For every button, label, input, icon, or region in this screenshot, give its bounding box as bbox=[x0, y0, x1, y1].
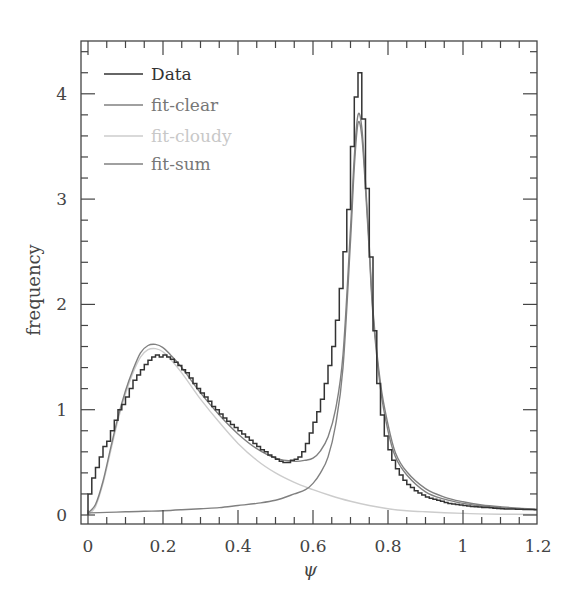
legend-item-data: Data bbox=[104, 64, 192, 84]
x-tick-label: 0.6 bbox=[299, 536, 326, 556]
plot-frame bbox=[81, 41, 537, 524]
histogram-bin bbox=[141, 370, 145, 515]
x-tick-label: 1.2 bbox=[524, 536, 551, 556]
histogram-bin bbox=[216, 410, 220, 515]
legend-label: Data bbox=[151, 64, 192, 84]
histogram-bin bbox=[152, 357, 156, 515]
y-axis-label: frequency bbox=[23, 243, 44, 335]
x-tick-label: 0.8 bbox=[374, 536, 401, 556]
legend-item-fit-cloudy: fit-cloudy bbox=[104, 126, 232, 146]
legend-label: fit-clear bbox=[151, 95, 219, 115]
legend: Datafit-clearfit-cloudyfit-sum bbox=[104, 64, 232, 174]
histogram-bin bbox=[287, 462, 291, 515]
histogram-bin bbox=[193, 383, 197, 515]
tick-labels: 00.20.40.60.811.201234 bbox=[56, 84, 551, 556]
x-tick-label: 0.4 bbox=[224, 536, 251, 556]
x-tick-label: 1 bbox=[458, 536, 469, 556]
histogram-bin bbox=[189, 378, 193, 515]
histogram-bin bbox=[242, 434, 246, 515]
histogram-bin bbox=[317, 412, 321, 515]
histogram-bin bbox=[268, 455, 272, 515]
histogram-bin bbox=[257, 447, 261, 515]
histogram-bin bbox=[159, 357, 163, 515]
histogram-bin bbox=[137, 375, 141, 515]
histogram-bin bbox=[272, 457, 276, 515]
legend-label: fit-sum bbox=[151, 154, 211, 174]
legend-item-fit-sum: fit-sum bbox=[104, 154, 211, 174]
x-tick-label: 0 bbox=[83, 536, 94, 556]
y-tick-label: 3 bbox=[56, 189, 67, 209]
histogram-bin bbox=[291, 460, 295, 515]
histogram-bin bbox=[358, 73, 362, 515]
histogram-bin bbox=[403, 480, 407, 515]
histogram-bin bbox=[212, 407, 216, 515]
histogram-bin bbox=[321, 399, 325, 515]
histogram-bin bbox=[343, 252, 347, 515]
histogram-bin bbox=[276, 459, 280, 515]
histogram-bin bbox=[122, 404, 126, 515]
y-tick-label: 0 bbox=[56, 505, 67, 525]
histogram-bin bbox=[309, 433, 313, 515]
histogram-bin bbox=[246, 437, 250, 515]
histogram-bin bbox=[279, 461, 283, 515]
histogram-bin bbox=[298, 457, 302, 515]
histogram-bin bbox=[163, 355, 167, 515]
series-line-fit-clear bbox=[88, 121, 538, 512]
y-tick-label: 2 bbox=[56, 294, 67, 314]
histogram-bin bbox=[208, 401, 212, 515]
x-tick-label: 0.2 bbox=[149, 536, 176, 556]
histogram-bin bbox=[126, 397, 130, 515]
legend-label: fit-cloudy bbox=[151, 126, 232, 146]
histogram-bin bbox=[219, 414, 223, 515]
histogram-bin bbox=[223, 418, 227, 515]
histogram-bin bbox=[174, 362, 178, 515]
histogram-bin bbox=[167, 357, 171, 515]
x-axis-label: ψ bbox=[303, 559, 318, 580]
histogram-bin bbox=[156, 355, 160, 515]
histogram-bin bbox=[144, 364, 148, 515]
histogram-bin bbox=[171, 359, 175, 515]
histogram-bin bbox=[186, 373, 190, 515]
histogram-bin bbox=[261, 450, 265, 515]
chart: 00.20.40.60.811.201234 ψ frequency Dataf… bbox=[0, 0, 575, 605]
histogram-bin bbox=[182, 370, 186, 515]
histogram-bin bbox=[264, 452, 268, 515]
axis-ticks bbox=[81, 41, 537, 524]
histogram-bin bbox=[313, 422, 317, 515]
histogram-bin bbox=[294, 459, 298, 515]
histogram-bin bbox=[328, 365, 332, 515]
y-tick-label: 1 bbox=[56, 400, 67, 420]
histogram-bin bbox=[201, 393, 205, 515]
histogram-bin bbox=[204, 397, 208, 515]
histogram-bin bbox=[118, 410, 122, 515]
histogram-bin bbox=[197, 389, 201, 515]
histogram-bin bbox=[178, 365, 182, 515]
legend-item-fit-clear: fit-clear bbox=[104, 95, 219, 115]
histogram-bin bbox=[283, 462, 287, 515]
y-tick-label: 4 bbox=[56, 84, 67, 104]
histogram-bin bbox=[148, 360, 152, 515]
histogram-bin bbox=[129, 389, 133, 515]
histogram-bin bbox=[306, 443, 310, 515]
histogram-bin bbox=[133, 380, 137, 515]
